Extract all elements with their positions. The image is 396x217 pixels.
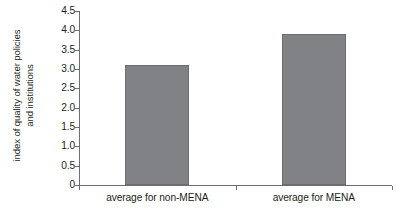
y-axis-tick — [75, 30, 79, 31]
y-tick-label: 1.0 — [46, 141, 75, 151]
x-axis-tick — [392, 186, 393, 190]
x-axis-category-labels: average for non-MENA average for MENA — [79, 192, 392, 212]
y-axis-title-line-2: and institutions — [23, 29, 36, 161]
x-axis-label-non-mena: average for non-MENA — [79, 192, 236, 204]
y-tick-label: 1.5 — [46, 122, 75, 132]
y-axis-title-text: index of quality of water policies and i… — [11, 29, 36, 161]
y-tick-label: 4.0 — [46, 25, 75, 35]
y-tick-label: 2.0 — [46, 103, 75, 113]
bar-non-mena — [125, 65, 189, 185]
y-axis-title-line-1: index of quality of water policies — [11, 29, 24, 161]
y-axis-tick — [75, 11, 79, 12]
y-axis-tick — [75, 69, 79, 70]
y-axis-tick — [75, 127, 79, 128]
plot-area — [79, 11, 392, 186]
y-axis-tick — [75, 146, 79, 147]
y-axis-tick — [75, 108, 79, 109]
y-axis-tick — [75, 166, 79, 167]
y-tick-label: 0.5 — [46, 161, 75, 171]
y-axis-tick — [75, 88, 79, 89]
bar-chart: index of quality of water policies and i… — [0, 0, 396, 217]
y-tick-label: 0 — [46, 180, 75, 190]
x-axis-label-mena: average for MENA — [236, 192, 393, 204]
y-tick-label: 2.5 — [46, 83, 75, 93]
x-axis-tick — [79, 186, 80, 190]
y-tick-label: 3.5 — [46, 45, 75, 55]
bar-mena — [282, 34, 346, 185]
y-axis-tick-labels: 4.5 4.0 3.5 3.0 2.5 2.0 1.5 1.0 0.5 0 — [46, 0, 75, 195]
y-axis-title: index of quality of water policies and i… — [0, 0, 46, 190]
y-axis-line — [79, 11, 80, 186]
y-axis-tick — [75, 50, 79, 51]
y-tick-label: 4.5 — [46, 6, 75, 16]
y-tick-label: 3.0 — [46, 64, 75, 74]
x-axis-tick — [236, 186, 237, 190]
